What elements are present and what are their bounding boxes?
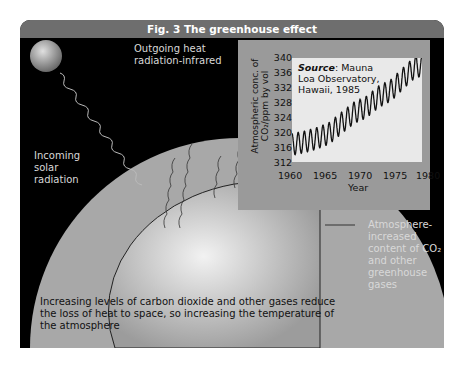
diagram-stage: Outgoing heat radiation-infrared Incomin… xyxy=(20,38,444,348)
x-axis-label: Year xyxy=(348,182,368,193)
y-tick: 336 xyxy=(252,67,292,78)
y-tick: 340 xyxy=(252,52,292,63)
y-tick: 332 xyxy=(252,82,292,93)
outgoing-label: Outgoing heat radiation-infrared xyxy=(134,43,222,67)
y-tick: 316 xyxy=(252,142,292,153)
caption: Increasing levels of carbon dioxide and … xyxy=(40,296,335,332)
incoming-label: Incoming solar radiation xyxy=(34,150,80,186)
sun-icon xyxy=(30,40,62,72)
x-tick: 1975 xyxy=(383,170,407,181)
x-tick: 1980 xyxy=(416,170,440,181)
co2-chart: Atmospheric conc. of CO₂/ppm by vol 340 … xyxy=(238,40,430,210)
y-tick: 312 xyxy=(252,157,292,168)
atmosphere-label: Atmosphere- increased content of CO₂ and… xyxy=(368,219,441,291)
figure-panel: Fig. 3 The greenhouse effect Outgoing he… xyxy=(20,20,444,348)
y-tick: 324 xyxy=(252,112,292,123)
x-tick: 1970 xyxy=(348,170,372,181)
source-note: Source: MaunaLoa Observatory,Hawaii, 198… xyxy=(298,62,380,95)
x-tick: 1960 xyxy=(278,170,302,181)
y-tick: 328 xyxy=(252,97,292,108)
y-tick: 320 xyxy=(252,127,292,138)
figure-title: Fig. 3 The greenhouse effect xyxy=(20,20,444,38)
x-tick: 1965 xyxy=(313,170,337,181)
